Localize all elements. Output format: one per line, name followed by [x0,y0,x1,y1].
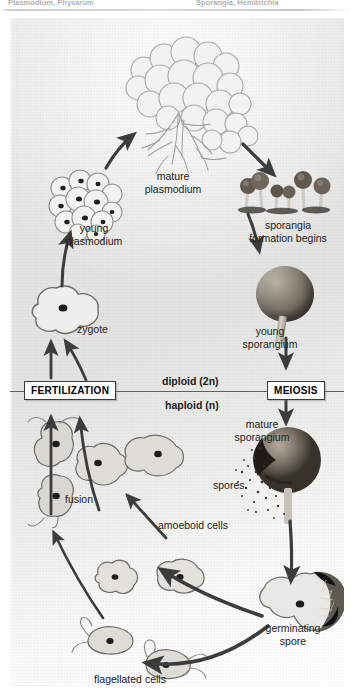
arrow-germinating-to-amoeboid [162,570,262,616]
label-fusion: fusion [65,493,125,506]
header-rule [0,9,351,11]
arrow-layer [10,18,344,686]
caption-plasmodium-physarum: Plasmodium, Physarum [8,0,94,7]
label-zygote: zygote [77,323,137,336]
arrow-fertilization-to-zygote-right [66,342,86,380]
arrow-mature-to-sporangia [243,144,273,174]
diploid-label: diploid (2n) [162,375,219,387]
arrow-young-to-mature [106,135,133,168]
arrow-mature-sporangium-to-germinating [290,521,292,580]
bottom-margin [0,686,351,693]
figure-root: Plasmodium, Physarum Sporangia, Hemitric… [0,0,351,693]
label-germinating-spore: germinating spore [243,622,343,647]
fertilization-label: FERTILIZATION [24,381,116,400]
caption-sporangia-hemitrichia: Sporangia, Hemitrichia [196,0,279,7]
haploid-label: haploid (n) [165,399,219,411]
label-spores: spores [213,479,269,492]
arrow-flagellated-to-fusion [54,533,103,618]
label-young-plasmodium: young plasmodium [50,222,138,247]
label-amoeboid-cells: amoeboid cells [158,519,258,532]
label-young-sporangium: young sporangium [228,325,312,350]
meiosis-label: MEIOSIS [267,381,325,400]
arrow-amoeboid-to-fusion [128,496,166,538]
label-mature-plasmodium: mature plasmodium [128,170,218,195]
life-cycle-panel: FERTILIZATION MEIOSIS diploid (2n) haplo… [10,18,344,686]
label-sporangia-formation: sporangia formation begins [232,219,344,244]
label-mature-sporangium: mature sporangium [216,418,308,443]
label-flagellated-cells: flagellated cells [70,673,190,686]
